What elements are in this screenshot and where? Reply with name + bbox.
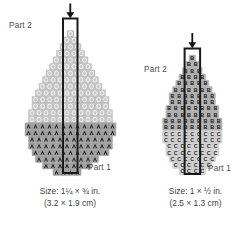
size-caption-large-metric: (3.2 × 1.9 cm) xyxy=(0,198,140,210)
pattern-panel-large: Part 2 Part 1 Size: 1¼ × ¾ in. (3.2 × 1.… xyxy=(0,0,140,227)
part1-label-small: Part 1 xyxy=(208,165,231,173)
upper-bead-region-b xyxy=(163,55,222,131)
part2-label-small: Part 2 xyxy=(144,66,167,74)
thread-direction-arrow xyxy=(66,4,74,19)
small-leaf-diagram: B C xyxy=(140,0,251,182)
size-caption-small-imperial: Size: 1 × ½ in. xyxy=(169,186,222,196)
size-caption-large-imperial: Size: 1¼ × ¾ in. xyxy=(40,186,100,196)
size-caption-large: Size: 1¼ × ¾ in. (3.2 × 1.9 cm) xyxy=(0,186,140,209)
size-caption-small-metric: (2.5 × 1.3 cm) xyxy=(140,198,251,210)
thread-direction-arrow-small xyxy=(188,33,196,48)
part2-label-large: Part 2 xyxy=(9,22,32,30)
small-leaf-svg: B C xyxy=(140,0,251,182)
beading-pattern-figure: Part 2 Part 1 Size: 1¼ × ¾ in. (3.2 × 1.… xyxy=(0,0,251,227)
upper-bead-region xyxy=(29,30,113,122)
size-caption-small: Size: 1 × ½ in. (2.5 × 1.3 cm) xyxy=(140,186,251,209)
pattern-panel-small: B C xyxy=(140,0,251,227)
part1-label-large: Part 1 xyxy=(88,164,111,172)
